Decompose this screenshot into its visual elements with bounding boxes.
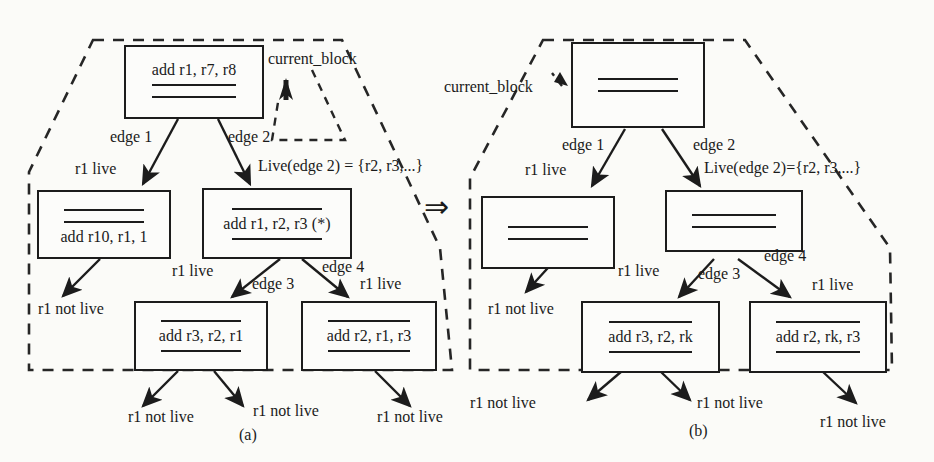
edge-a-out-br (375, 371, 410, 406)
block-rule (161, 350, 242, 352)
panel-b-edge2-label: edge 2 (693, 136, 735, 153)
block-code: add r1, r2, r3 (*) (223, 215, 331, 233)
basic-block-a-mid-right[interactable]: add r1, r2, r3 (*) (202, 188, 352, 259)
edge-b-out-br (822, 371, 856, 403)
block-code: add r3, r2, rk (608, 328, 693, 346)
transform-arrow-icon: ⇒ (424, 192, 449, 222)
panel-a-notlive-br-label: r1 not live (377, 408, 443, 425)
block-code: add r1, r7, r8 (152, 61, 237, 79)
panel-a-live-set-label: Live(edge 2) = {r2, r3,...} (258, 157, 423, 174)
panel-a-notlive-left-label: r1 not live (38, 300, 104, 317)
block-code: add r10, r1, 1 (60, 228, 147, 246)
edge-a-out-left (63, 259, 100, 296)
block-rule (609, 351, 693, 353)
figure-canvas: add r1, r7, r8 add r10, r1, 1 add r1, r2… (0, 0, 934, 462)
basic-block-a-bot-right[interactable]: add r2, r1, r3 (301, 301, 437, 371)
block-rule (232, 238, 323, 240)
edge-a-out-bl-2 (214, 371, 243, 406)
panel-b-notlive-bl2-label: r1 not live (697, 394, 763, 411)
edge-b-out-bl-2 (660, 371, 690, 400)
block-rule (776, 351, 859, 353)
block-rule (598, 90, 679, 92)
block-rule (64, 221, 145, 223)
basic-block-a-bot-left[interactable]: add r3, r2, r1 (134, 301, 268, 371)
edge-b-4 (738, 259, 790, 297)
panel-b-edge4-label: edge 4 (764, 247, 806, 264)
block-code: add r2, r1, r3 (327, 327, 412, 345)
panel-a-edge1-label: edge 1 (110, 128, 152, 145)
basic-block-b-bot-left[interactable]: add r3, r2, rk (581, 301, 720, 373)
block-code: add r3, r2, r1 (159, 327, 244, 345)
panel-a-edge3-label: edge 3 (252, 275, 294, 292)
basic-block-b-top[interactable] (571, 42, 705, 128)
panel-b-notlive-bl1-label: r1 not live (470, 394, 536, 411)
panel-a-callout-label: current_block (268, 50, 357, 67)
block-rule (232, 208, 323, 210)
panel-a-callout-pointer (272, 70, 345, 140)
block-rule (508, 226, 589, 228)
block-code: add r2, rk, r3 (776, 328, 861, 346)
panel-b-notlive-br-label: r1 not live (820, 413, 886, 430)
panel-a-live-e4-label: r1 live (360, 275, 401, 292)
block-rule (609, 321, 693, 323)
edge-b-out-bl-1 (588, 371, 622, 400)
panel-b-edge1-label: edge 1 (562, 136, 604, 153)
basic-block-a-mid-left[interactable]: add r10, r1, 1 (37, 190, 171, 259)
panel-a-edge2-label: edge 2 (228, 128, 270, 145)
panel-b-edge3-label: edge 3 (698, 265, 740, 282)
panel-b-callout-pointer (552, 72, 568, 86)
block-rule (152, 84, 236, 86)
panel-b-live-e3-label: r1 live (618, 262, 659, 279)
block-rule (692, 226, 775, 228)
panel-b-caption: (b) (689, 422, 708, 440)
block-rule (598, 78, 679, 80)
block-rule (508, 238, 589, 240)
panel-b-notlive-left-label: r1 not live (488, 300, 554, 317)
panel-b-live-e4-label: r1 live (812, 276, 853, 293)
block-rule (328, 320, 410, 322)
panel-b-live-set-label: Live(edge 2)={r2, r3,...} (704, 159, 861, 176)
basic-block-b-bot-right[interactable]: add r2, rk, r3 (749, 301, 887, 373)
block-rule (776, 321, 859, 323)
edge-a-out-bl-1 (143, 371, 178, 406)
block-rule (692, 214, 775, 216)
block-rule (161, 320, 242, 322)
block-rule (328, 350, 410, 352)
panel-a-live-e1-label: r1 live (75, 160, 116, 177)
panel-a-caption: (a) (239, 426, 257, 444)
panel-b-callout-label: current_block (444, 78, 533, 95)
basic-block-b-mid-left[interactable] (481, 196, 615, 269)
panel-a-notlive-bl2-label: r1 not live (253, 402, 319, 419)
block-rule (152, 96, 236, 98)
panel-a-live-e3-label: r1 live (172, 262, 213, 279)
panel-b-live-e1-label: r1 live (525, 161, 566, 178)
panel-a-edge4-label: edge 4 (322, 258, 364, 275)
block-rule (64, 209, 145, 211)
panel-a-notlive-bl1-label: r1 not live (128, 408, 194, 425)
basic-block-a-top[interactable]: add r1, r7, r8 (124, 45, 264, 119)
basic-block-b-mid-right[interactable] (665, 190, 803, 252)
